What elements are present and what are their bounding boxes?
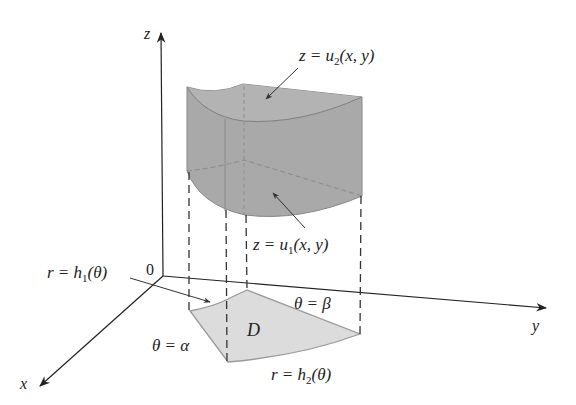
z-axis	[161, 33, 163, 276]
region-d	[190, 290, 360, 362]
outer-curve-label: r = h2(θ)	[271, 366, 331, 386]
x-axis-label: x	[20, 376, 27, 392]
region-d-label: D	[247, 321, 260, 339]
lower-surface-label: z = u1(x, y)	[253, 236, 329, 256]
x-axis	[40, 276, 163, 386]
upper-surface-label: z = u2(x, y)	[299, 47, 375, 67]
z-axis-label: z	[144, 26, 150, 42]
theta-beta-label: θ = β	[294, 295, 331, 312]
inner-curve-label: r = h1(θ)	[47, 264, 107, 284]
diagram-canvas	[0, 0, 576, 405]
origin-label: 0	[146, 262, 154, 278]
theta-alpha-label: θ = α	[152, 337, 189, 354]
inner-curve-pointer	[130, 278, 210, 302]
y-axis-label: y	[532, 318, 539, 334]
